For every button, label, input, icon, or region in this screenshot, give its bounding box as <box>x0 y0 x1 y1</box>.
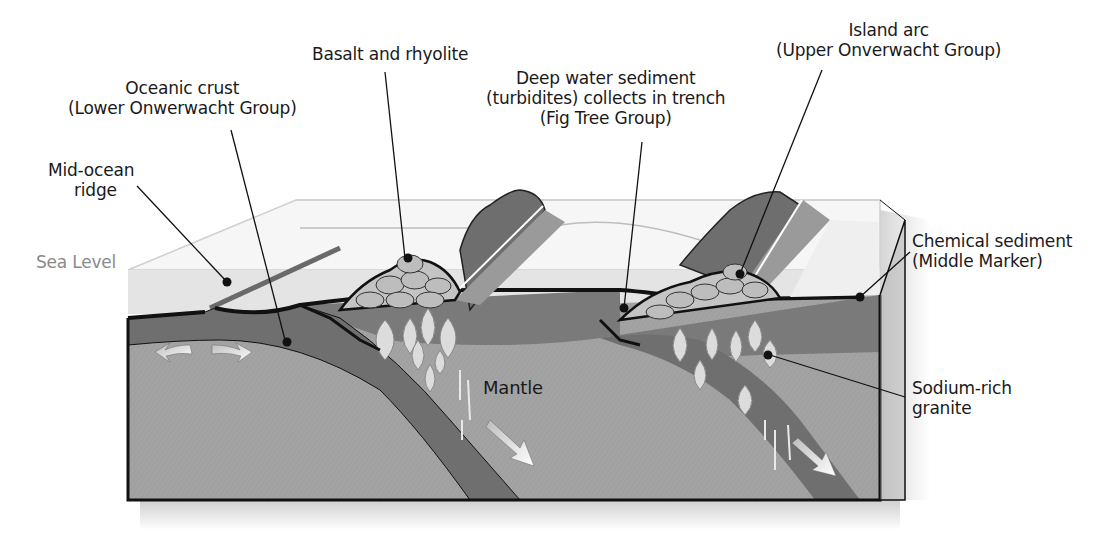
label-mid-ocean-ridge: Mid-ocean ridge <box>48 160 134 200</box>
label-line: (turbidites) collects in trench <box>486 88 725 108</box>
label-line: (Middle Marker) <box>912 251 1072 271</box>
label-line: (Upper Onverwacht Group) <box>776 40 1001 60</box>
label-line: Sea Level <box>36 252 116 272</box>
label-sodium-rich-granite: Sodium-rich granite <box>912 378 1012 418</box>
label-line: granite <box>912 398 1012 418</box>
label-island-arc: Island arc (Upper Onverwacht Group) <box>776 20 1001 60</box>
label-basalt-rhyolite: Basalt and rhyolite <box>312 44 468 64</box>
label-line: Sodium-rich <box>912 378 1012 398</box>
label-line: Mid-ocean <box>48 160 134 180</box>
label-line: (Lower Onwerwacht Group) <box>68 98 297 118</box>
label-line: Island arc <box>776 20 1001 40</box>
label-chemical-sediment: Chemical sediment (Middle Marker) <box>912 231 1072 271</box>
label-line: Oceanic crust <box>68 78 297 98</box>
label-line: ridge <box>48 180 134 200</box>
label-line: Chemical sediment <box>912 231 1072 251</box>
label-deep-water-sediment: Deep water sediment (turbidites) collect… <box>486 68 725 128</box>
label-oceanic-crust: Oceanic crust (Lower Onwerwacht Group) <box>68 78 297 118</box>
label-sea-level: Sea Level <box>36 252 116 272</box>
label-line: Deep water sediment <box>486 68 725 88</box>
label-line: (Fig Tree Group) <box>486 108 725 128</box>
label-line: Basalt and rhyolite <box>312 44 468 64</box>
label-mantle: Mantle <box>483 378 543 398</box>
label-line: Mantle <box>483 378 543 398</box>
